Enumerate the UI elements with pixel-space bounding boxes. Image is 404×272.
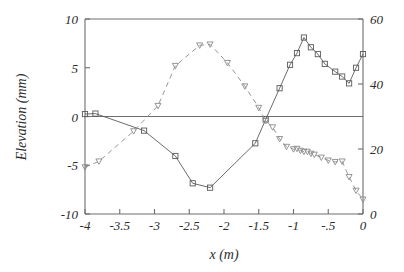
chart-figure: -4-3.5-3-2.5-2-1.5-1-.50-10-505100204060… [0, 0, 404, 272]
data-point-marker [353, 188, 359, 193]
x-axis-title: x (m) [208, 247, 238, 263]
y-tick-label: -5 [67, 158, 78, 173]
y2-tick-label: 0 [370, 207, 377, 222]
tick-labels: -4-3.5-3-2.5-2-1.5-1-.50-10-505100204060 [61, 12, 384, 233]
x-tick-label: -2 [219, 218, 230, 233]
data-point-marker [346, 175, 352, 180]
chart-canvas: -4-3.5-3-2.5-2-1.5-1-.50-10-505100204060… [0, 0, 404, 272]
x-tick-label: 0 [360, 218, 367, 233]
x-tick-label: -2.5 [179, 218, 200, 233]
x-tick-label: -3 [149, 218, 160, 233]
y-axis-title: Elevation (mm) [14, 73, 30, 161]
data-point-marker [318, 155, 324, 160]
x-tick-label: -1 [288, 218, 299, 233]
y2-tick-label: 40 [370, 77, 384, 92]
data-point-marker [270, 125, 276, 130]
y-tick-label: -10 [61, 207, 79, 222]
x-tick-label: -.5 [321, 218, 336, 233]
y-tick-label: 5 [72, 61, 79, 76]
y2-tick-label: 60 [370, 12, 384, 27]
data-series-layer [82, 35, 366, 202]
data-point-marker [96, 159, 102, 164]
y2-tick-label: 20 [370, 142, 384, 157]
x-tick-label: -4 [80, 218, 91, 233]
series-line-elevation-dashed [85, 44, 363, 199]
x-tick-label: -1.5 [248, 218, 269, 233]
x-tick-label: -3.5 [109, 218, 130, 233]
series-elevation-solid [82, 35, 365, 190]
y-tick-label: 10 [65, 12, 79, 27]
y-tick-label: 0 [72, 110, 79, 125]
